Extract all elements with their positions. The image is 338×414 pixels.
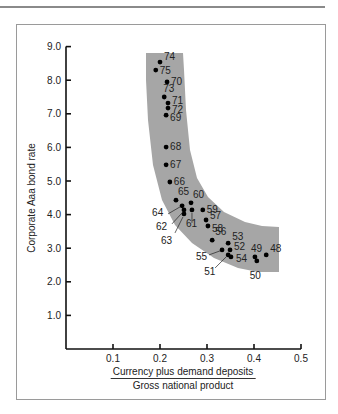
data-point [226,241,231,246]
x-tick-label: 0.5 [294,353,308,364]
point-label: 51 [204,266,216,277]
point-label: 57 [210,210,222,221]
data-point [166,101,171,106]
data-point [204,218,209,223]
data-point [228,247,233,252]
data-point [254,259,259,264]
data-point [167,180,172,185]
x-axis-label-denominator: Gross national product [111,379,256,391]
scatter-plot: 1.02.03.04.05.06.07.08.09.0 0.10.20.30.4… [0,0,338,414]
data-point [190,207,195,212]
data-point [206,224,211,229]
point-label: 48 [270,243,282,254]
point-label: 49 [251,243,263,254]
point-label: 50 [250,270,262,281]
x-tick-label: 0.3 [200,353,214,364]
data-point [164,145,169,150]
point-label: 60 [193,189,205,200]
x-axis-label-numerator: Currency plus demand deposits [111,366,256,379]
y-tick-label: 8.0 [47,75,61,86]
data-point [153,68,158,73]
point-label: 73 [163,83,175,94]
point-label: 74 [164,51,176,62]
data-point [200,207,205,212]
x-axis-label: Currency plus demand deposits Gross nati… [111,366,256,391]
y-tick-label: 1.0 [47,310,61,321]
data-point [164,113,169,118]
point-label: 62 [156,221,168,232]
y-tick-label: 6.0 [47,142,61,153]
point-label: 64 [152,207,164,218]
data-point [162,95,167,100]
y-axis-ticks: 1.02.03.04.05.06.07.08.09.0 [47,41,71,321]
point-label: 67 [170,159,182,170]
data-point [220,247,225,252]
y-tick-label: 2.0 [47,276,61,287]
data-point [174,198,179,203]
point-label: 54 [236,253,248,264]
x-axis-ticks: 0.10.20.30.40.5 [106,344,308,364]
point-label: 65 [178,186,190,197]
data-point [164,162,169,167]
point-label: 69 [170,112,182,123]
y-tick-label: 3.0 [47,243,61,254]
y-tick-label: 7.0 [47,108,61,119]
y-tick-label: 4.0 [47,209,61,220]
point-label: 68 [170,141,182,152]
point-label: 75 [160,65,172,76]
y-tick-label: 9.0 [47,41,61,52]
x-tick-label: 0.4 [247,353,261,364]
data-point [158,60,163,65]
data-point [166,106,171,111]
point-label: 56 [215,226,227,237]
data-point [210,238,215,243]
point-label: 52 [234,241,246,252]
data-point [189,200,194,205]
y-axis-label: Corporate Aaa bond rate [26,143,37,253]
data-point [229,255,234,260]
point-label: 63 [161,235,173,246]
x-tick-label: 0.2 [153,353,167,364]
x-tick-label: 0.1 [106,353,120,364]
data-point [264,253,269,258]
point-label: 55 [196,251,208,262]
y-tick-label: 5.0 [47,176,61,187]
